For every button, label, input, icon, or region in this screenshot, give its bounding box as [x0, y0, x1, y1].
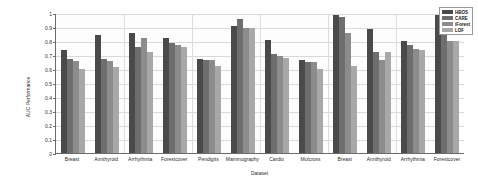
y-tick-label: 0.2 — [45, 124, 52, 129]
bar — [283, 58, 289, 153]
bar — [147, 52, 153, 153]
bar — [419, 50, 425, 153]
y-tick-label: 0.8 — [45, 40, 52, 45]
bar-group — [362, 14, 396, 153]
y-tick-label: 0.7 — [45, 54, 52, 59]
y-tick-label: 0.3 — [45, 110, 52, 115]
y-axis-label: AUC Performance — [25, 77, 31, 118]
legend-label: HBOS — [455, 10, 468, 15]
bar-group — [396, 14, 430, 153]
x-axis-label: Dataset — [55, 170, 464, 176]
legend-label: CARE — [455, 16, 468, 21]
bar-group — [192, 14, 226, 153]
bar-group — [56, 14, 90, 153]
legend-swatch — [442, 10, 453, 14]
bar — [113, 67, 119, 153]
bar-group — [158, 14, 192, 153]
legend-swatch — [442, 28, 453, 32]
legend: HBOSCAREiForestLOF — [439, 7, 473, 35]
bar — [385, 52, 391, 153]
y-tick-label: 0.1 — [45, 138, 52, 143]
bar — [351, 66, 357, 154]
bar-group — [90, 14, 124, 153]
y-tick-label: 0 — [49, 152, 52, 157]
bar — [215, 66, 221, 153]
bar-group — [294, 14, 328, 153]
bar-group — [328, 14, 362, 153]
y-tick-label: 0.9 — [45, 26, 52, 31]
y-tick-mark — [53, 154, 56, 155]
plot-area: 00.10.20.30.40.50.60.70.80.91 — [55, 14, 464, 154]
y-tick-label: 0.4 — [45, 96, 52, 101]
legend-label: iForest — [455, 22, 470, 27]
legend-item[interactable]: LOF — [442, 27, 470, 33]
chart-figure: 00.10.20.30.40.50.60.70.80.91 AUC Perfor… — [0, 0, 478, 194]
bar-group — [226, 14, 260, 153]
bar-groups — [56, 14, 464, 153]
bar — [453, 41, 459, 153]
legend-swatch — [442, 22, 453, 26]
bar — [249, 28, 255, 153]
bar — [317, 69, 323, 153]
y-tick-label: 0.6 — [45, 68, 52, 73]
legend-label: LOF — [455, 28, 464, 33]
bar-group — [124, 14, 158, 153]
bar-group — [260, 14, 294, 153]
bar — [181, 47, 187, 153]
y-tick-label: 1 — [49, 12, 52, 17]
legend-swatch — [442, 16, 453, 20]
bar — [79, 69, 85, 153]
y-tick-label: 0.5 — [45, 82, 52, 87]
